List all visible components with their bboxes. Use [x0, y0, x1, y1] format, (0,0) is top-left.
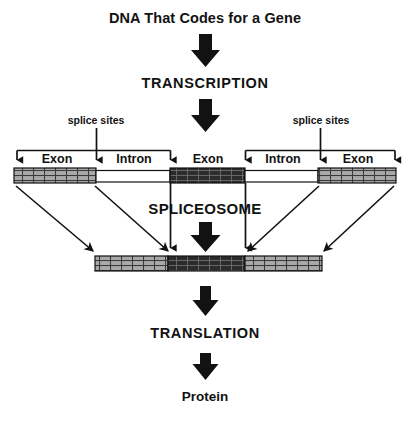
pre-mrna-exon-3 — [318, 168, 396, 183]
pre-mrna-bar — [14, 168, 396, 183]
pre-mrna-exon-2 — [170, 168, 245, 183]
arrow-translation-to-protein — [193, 353, 219, 380]
pre-mrna-label-exon-1: Exon — [42, 152, 73, 166]
pre-mrna-label-intron-1: Intron — [116, 152, 151, 166]
mature-mrna-bar — [95, 256, 322, 271]
page-title: DNA That Codes for a Gene — [109, 10, 301, 26]
splice-sites-left-label: splice sites — [68, 114, 125, 126]
mature-mrna-exon-3 — [245, 256, 322, 271]
pre-mrna-intron-1 — [96, 171, 170, 183]
mature-mrna-exon-1 — [95, 256, 168, 271]
pre-mrna-exon-1 — [14, 168, 96, 183]
step-translation: TRANSLATION — [150, 325, 259, 341]
arrow-transcription-to-premrna — [191, 99, 220, 132]
arrow-spliceosome — [191, 222, 221, 252]
pre-mrna-label-intron-2: Intron — [265, 152, 300, 166]
pre-mrna-label-exon-2: Exon — [193, 152, 224, 166]
splicing-diagram: DNA That Codes for a Gene TRANSCRIPTION … — [0, 0, 411, 423]
pre-mrna-intron-2 — [245, 171, 318, 183]
step-transcription: TRANSCRIPTION — [141, 75, 268, 91]
step-protein: Protein — [182, 389, 229, 404]
arrow-dna-to-transcription — [191, 34, 220, 67]
step-spliceosome: SPLICEOSOME — [148, 200, 261, 217]
pre-mrna-label-exon-3: Exon — [343, 152, 374, 166]
mature-mrna-exon-2 — [168, 256, 245, 271]
splice-sites-right-label: splice sites — [293, 114, 350, 126]
arrow-mrna-to-translation — [193, 286, 219, 316]
